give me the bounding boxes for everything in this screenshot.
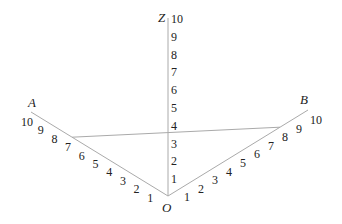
- tick-b-5: 5: [240, 156, 246, 170]
- tick-a-2: 2: [134, 182, 140, 196]
- tick-a-3: 3: [120, 174, 126, 188]
- tick-b-4: 4: [226, 165, 232, 179]
- tick-a-9: 9: [38, 123, 44, 137]
- tick-a-1: 1: [147, 191, 153, 205]
- tick-z-9: 9: [171, 30, 177, 44]
- axes-layer: [31, 18, 308, 196]
- origin-label: O: [162, 200, 172, 215]
- tick-b-3: 3: [212, 173, 218, 187]
- tick-z-8: 8: [171, 48, 177, 62]
- tick-z-6: 6: [171, 83, 177, 97]
- tick-b-7: 7: [268, 139, 274, 153]
- nomogram-svg: 12345678910Z12345678910A12345678910BO: [0, 0, 342, 224]
- tick-a-4: 4: [106, 165, 112, 179]
- axis-b: [168, 110, 308, 196]
- tick-z-3: 3: [171, 137, 177, 151]
- tick-z-7: 7: [171, 65, 177, 79]
- tick-z-1: 1: [171, 172, 177, 186]
- tick-a-8: 8: [51, 132, 57, 146]
- tick-a-5: 5: [93, 157, 99, 171]
- tick-b-1: 1: [184, 190, 190, 204]
- tick-z-10: 10: [171, 12, 183, 26]
- axis-a: [31, 112, 168, 196]
- tick-a-7: 7: [65, 140, 71, 154]
- nomogram-diagram: 12345678910Z12345678910A12345678910BO: [0, 0, 342, 224]
- tick-z-5: 5: [171, 101, 177, 115]
- tick-b-2: 2: [198, 182, 204, 196]
- labels-layer: 12345678910Z12345678910A12345678910BO: [21, 10, 322, 215]
- tick-b-9: 9: [296, 122, 302, 136]
- tick-z-2: 2: [171, 154, 177, 168]
- axis-label-a: A: [27, 95, 36, 110]
- axis-label-b: B: [300, 92, 308, 107]
- tick-a-6: 6: [79, 149, 85, 163]
- tick-b-10: 10: [310, 113, 322, 127]
- tick-z-4: 4: [171, 119, 177, 133]
- tick-b-6: 6: [254, 147, 260, 161]
- axis-label-z: Z: [158, 10, 166, 25]
- tick-a-10: 10: [21, 115, 33, 129]
- tick-b-8: 8: [282, 130, 288, 144]
